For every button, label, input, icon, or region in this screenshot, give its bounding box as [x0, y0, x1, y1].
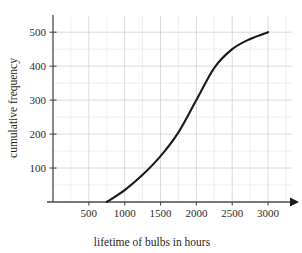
y-axis-title: cumulative frequency	[7, 58, 20, 158]
y-tick-label: 500	[30, 26, 47, 38]
y-tick-label: 200	[30, 128, 47, 140]
x-tick-label: 1500	[150, 207, 173, 219]
x-axis-title: lifetime of bulbs in hours	[94, 236, 211, 248]
cumulative-frequency-chart: 50010001500200025003000 100200300400500 …	[0, 0, 302, 253]
x-tick-label: 500	[81, 207, 98, 219]
y-tick-label: 400	[30, 60, 47, 72]
x-tick-label: 1000	[114, 207, 137, 219]
y-tick-label: 300	[30, 94, 47, 106]
x-tick-label: 2500	[221, 207, 244, 219]
x-tick-label: 3000	[257, 207, 280, 219]
x-tick-label: 2000	[185, 207, 208, 219]
y-tick-label: 100	[30, 162, 47, 174]
chart-canvas: 50010001500200025003000 100200300400500 …	[0, 0, 302, 253]
